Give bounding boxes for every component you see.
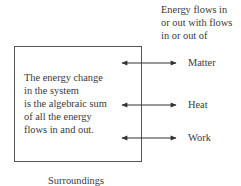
caption-line-3: in or out of bbox=[161, 29, 232, 42]
caption-line-1: Energy flows in bbox=[161, 3, 232, 16]
system-description: The energy change in the system is the a… bbox=[24, 71, 107, 136]
flow-label-work: Work bbox=[188, 132, 211, 144]
flow-label-matter: Matter bbox=[188, 57, 216, 69]
flow-label-heat: Heat bbox=[188, 99, 208, 111]
system-line-3: is the algebraic sum bbox=[24, 97, 107, 110]
system-line-5: flows in and out. bbox=[24, 123, 107, 136]
system-line-4: of all the energy bbox=[24, 110, 107, 123]
system-line-1: The energy change bbox=[24, 71, 107, 84]
surroundings-label: Surroundings bbox=[48, 175, 104, 186]
caption-line-2: or out with flows bbox=[161, 16, 232, 29]
system-line-2: in the system bbox=[24, 84, 107, 97]
energy-flows-caption: Energy flows in or out with flows in or … bbox=[161, 3, 232, 42]
